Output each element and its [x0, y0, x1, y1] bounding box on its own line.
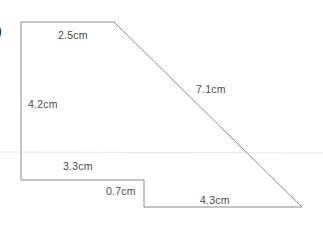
- slanted-edge-label: 7.1cm: [196, 84, 226, 95]
- shape-svg: [0, 0, 323, 230]
- lower-left-edge-label: 3.3cm: [63, 161, 93, 172]
- left-edge-label: 4.2cm: [28, 99, 58, 110]
- bottom-edge-label: 4.3cm: [200, 195, 230, 206]
- question-marker: ): [0, 23, 2, 38]
- step-edge-label: 0.7cm: [106, 186, 136, 197]
- compound-shape-outline: [21, 22, 302, 207]
- top-edge-label: 2.5cm: [58, 30, 88, 41]
- diagram-canvas: ) 2.5cm 7.1cm 4.2cm 3.3cm 0.7cm 4.3cm: [0, 0, 323, 230]
- faint-rule-line: [0, 152, 323, 153]
